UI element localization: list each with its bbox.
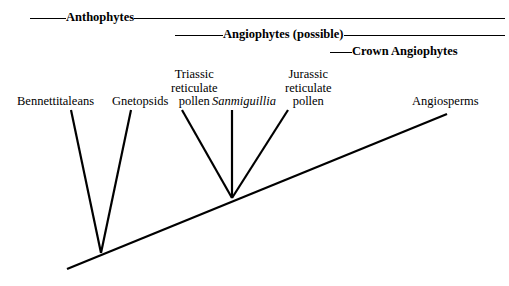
branch-line-gnetopsids bbox=[101, 110, 131, 253]
cladogram-figure: Anthophytes Angiophytes (possible) Crown… bbox=[0, 0, 509, 286]
taxon-label-bennettitaleans: Bennettitaleans bbox=[17, 95, 94, 109]
taxon-label-line: reticulate bbox=[171, 82, 218, 96]
tree-lines-group bbox=[67, 110, 447, 269]
taxon-label-line: Triassic bbox=[171, 68, 218, 82]
taxon-label-line: Gnetopsids bbox=[112, 95, 168, 109]
taxon-label-triassic-reticulate-pollen: Triassicreticulatepollen bbox=[171, 68, 218, 109]
taxon-label-gnetopsids: Gnetopsids bbox=[112, 95, 168, 109]
taxon-label-line: Angiosperms bbox=[412, 95, 479, 109]
taxon-label-line: Bennettitaleans bbox=[17, 95, 94, 109]
taxon-label-sanmiguillia: Sanmiguillia bbox=[212, 95, 276, 109]
branch-line-bennettitaleans bbox=[71, 110, 101, 253]
trunk-line bbox=[67, 114, 447, 269]
taxon-label-line: pollen bbox=[285, 95, 332, 109]
tree-drawing bbox=[0, 0, 509, 286]
taxon-label-jurassic-reticulate-pollen: Jurassicreticulatepollen bbox=[285, 68, 332, 109]
taxon-label-line: Sanmiguillia bbox=[212, 95, 276, 109]
taxon-label-angiosperms: Angiosperms bbox=[412, 95, 479, 109]
taxon-label-line: reticulate bbox=[285, 82, 332, 96]
branch-line-jurassic bbox=[232, 110, 288, 198]
branch-line-triassic bbox=[182, 110, 232, 198]
taxon-label-line: pollen bbox=[171, 95, 218, 109]
taxon-label-line: Jurassic bbox=[285, 68, 332, 82]
